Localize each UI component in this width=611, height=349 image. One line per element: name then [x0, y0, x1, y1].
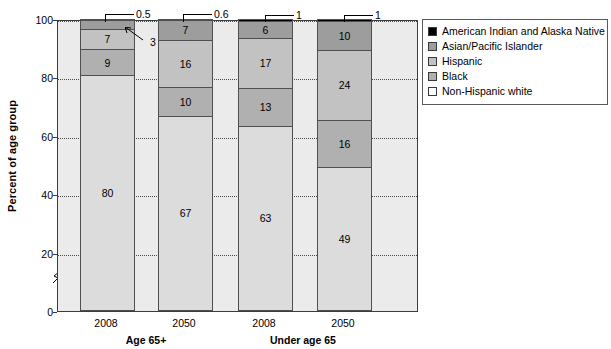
legend-item-hispanic[interactable]: Hispanic [428, 54, 602, 69]
legend-label: Black [442, 71, 468, 82]
legend-label: Asian/Pacific Islander [442, 41, 542, 52]
y-tick-20: 20 [7, 248, 53, 260]
callout-leader-3-diagonal [125, 27, 151, 51]
y-axis-ticks: 100 80 60 40 20 0 [0, 20, 53, 312]
callout-06: 0.6 [214, 8, 229, 20]
x-tick-label-age65plus-2008: 2008 [71, 317, 141, 329]
x-tick-label-age65plus-2050: 2050 [149, 317, 219, 329]
bar-age65plus-2008[interactable]: 7 9 80 [80, 19, 135, 311]
segment-black[interactable]: 16 [317, 121, 372, 168]
legend-swatch-icon [428, 57, 437, 66]
legend-swatch-icon [428, 27, 437, 36]
y-tick-60: 60 [7, 131, 53, 143]
segment-value: 13 [260, 102, 272, 113]
segment-non-hispanic-white[interactable]: 63 [238, 127, 293, 311]
legend-item-asian-pacific-islander[interactable]: Asian/Pacific Islander [428, 39, 602, 54]
segment-value: 9 [105, 58, 111, 69]
callout-leader-1b-vertical [344, 15, 345, 22]
segment-value: 63 [260, 213, 272, 224]
legend-label: Hispanic [442, 56, 482, 67]
segment-hispanic[interactable]: 17 [238, 39, 293, 89]
callout-leader-05-horizontal [105, 14, 134, 15]
y-tick-80: 80 [7, 72, 53, 84]
segment-black[interactable]: 9 [80, 50, 135, 76]
callout-leader-06-horizontal [183, 14, 212, 15]
legend-item-non-hispanic-white[interactable]: Non-Hispanic white [428, 84, 602, 99]
segment-hispanic[interactable]: 24 [317, 51, 372, 121]
segment-value: 16 [180, 59, 192, 70]
segment-value: 80 [102, 188, 114, 199]
callout-05: 0.5 [136, 8, 151, 20]
segment-non-hispanic-white[interactable]: 67 [158, 117, 213, 311]
segment-hispanic[interactable]: 16 [158, 41, 213, 88]
bar-age65plus-2050[interactable]: 7 16 10 67 [158, 19, 213, 311]
segment-value: 16 [339, 139, 351, 150]
y-tick-100: 100 [7, 14, 53, 26]
callout-leader-1a-vertical [265, 15, 266, 22]
legend-item-black[interactable]: Black [428, 69, 602, 84]
callout-leader-05-vertical [105, 14, 106, 22]
callout-leader-06-vertical [183, 14, 184, 22]
callout-leader-1b-horizontal [344, 15, 373, 16]
segment-value: 17 [260, 58, 272, 69]
legend-label: American Indian and Alaska Native [442, 26, 605, 37]
segment-black[interactable]: 10 [158, 88, 213, 117]
segment-value: 6 [263, 25, 269, 36]
segment-value: 49 [339, 234, 351, 245]
segment-value: 7 [183, 25, 189, 36]
segment-asian-pacific-islander[interactable]: 10 [317, 22, 372, 51]
legend-swatch-icon [428, 72, 437, 81]
segment-value: 10 [180, 97, 192, 108]
segment-asian-pacific-islander[interactable]: 6 [238, 22, 293, 40]
bar-under65-2050[interactable]: 10 24 16 49 [317, 19, 372, 311]
segment-black[interactable]: 13 [238, 89, 293, 127]
callout-1-bar3: 1 [296, 9, 302, 21]
legend-item-american-indian[interactable]: American Indian and Alaska Native [428, 24, 602, 39]
y-tick-40: 40 [7, 189, 53, 201]
x-tick-label-under65-2008: 2008 [229, 317, 299, 329]
segment-non-hispanic-white[interactable]: 80 [80, 76, 135, 311]
x-axis: 2008 2050 2008 2050 Age 65+ Under age 65 [57, 313, 418, 349]
legend-label: Non-Hispanic white [442, 86, 532, 97]
bar-under65-2008[interactable]: 6 17 13 63 [238, 19, 293, 311]
legend-swatch-icon [428, 42, 437, 51]
chart-legend: American Indian and Alaska Native Asian/… [422, 19, 608, 105]
callout-3: 3 [150, 36, 156, 48]
segment-non-hispanic-white[interactable]: 49 [317, 168, 372, 311]
segment-value: 67 [180, 208, 192, 219]
segment-asian-pacific-islander[interactable]: 7 [158, 21, 213, 41]
chart-plot-area: 7 9 80 7 16 10 67 [57, 20, 418, 312]
callout-leader-1a-horizontal [265, 15, 294, 16]
callout-1-bar4: 1 [375, 9, 381, 21]
segment-value: 10 [339, 31, 351, 42]
x-group-label-age65plus: Age 65+ [66, 334, 226, 346]
segment-value: 24 [339, 80, 351, 91]
x-group-label-under65: Under age 65 [223, 334, 383, 346]
plot-inner: 7 9 80 7 16 10 67 [58, 21, 417, 311]
x-tick-label-under65-2050: 2050 [308, 317, 378, 329]
y-tick-0: 0 [7, 306, 53, 318]
segment-value: 7 [105, 34, 111, 45]
legend-swatch-icon [428, 87, 437, 96]
